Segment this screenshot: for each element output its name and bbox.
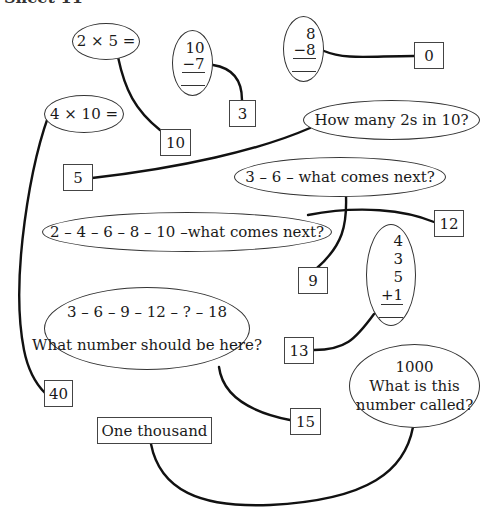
connector-q2-a3 [213,65,242,100]
subtrahend: −8 [293,42,315,59]
question-text: 4 × 10 = [50,106,118,123]
answer-text: One thousand [102,422,208,440]
minuend: 10 [185,40,204,56]
answer-box-12: 12 [434,210,464,237]
question-text: What number should be here? [32,337,262,354]
addend: +1 [381,286,403,305]
question-1000-name: 1000 What is this number called? [349,344,480,428]
question-text: 3 – 6 – what comes next? [245,169,434,186]
question-missing-number: 3 – 6 – 9 – 12 – ? – 18 What number shou… [44,287,250,370]
question-add-4-3-5-1: 4 3 5 +1 [366,224,416,326]
answer-text: 15 [296,413,315,431]
answer-box-9: 9 [298,267,328,294]
answer-text: 13 [289,342,308,360]
question-how-many-2s: How many 2s in 10? [303,100,480,140]
question-2x5: 2 × 5 = [72,23,140,60]
subtraction-stack: 8 −8 [292,26,316,72]
addend: 4 [393,232,403,250]
answer-box-3: 3 [229,100,256,127]
connector-q3-a0 [324,51,414,57]
connector-q7-a12 [308,210,434,222]
answer-box-5: 5 [63,164,93,191]
question-8-minus-8: 8 −8 [283,16,324,82]
answer-text: 12 [439,215,458,233]
connector-q9-a15 [219,367,290,420]
question-text: What is this [369,377,459,396]
question-3-6-next: 3 – 6 – what comes next? [234,157,446,197]
connector-q8-a13 [314,314,374,350]
answer-box-10: 10 [160,129,191,156]
question-10-minus-7: 10 −7 [172,30,213,96]
sequence-text: 3 – 6 – 9 – 12 – ? – 18 [67,304,227,321]
answer-text: 0 [424,47,434,65]
question-text: number called? [356,396,473,415]
addend: 3 [393,250,403,268]
answer-box-40: 40 [44,380,73,407]
question-text: 2 – 4 – 6 – 8 – 10 –what comes next? [50,224,324,241]
answer-text: 9 [308,272,318,290]
answer-text: 3 [238,105,248,123]
connector-lines [0,0,495,515]
question-2-4-6-8-10-next: 2 – 4 – 6 – 8 – 10 –what comes next? [42,212,332,252]
answer-box-one-thousand: One thousand [97,417,212,444]
answer-blank [379,305,403,318]
question-text: 2 × 5 = [77,33,136,50]
addition-stack: 4 3 5 +1 [379,232,403,318]
question-4x10: 4 × 10 = [44,95,124,133]
answer-blank [292,59,316,72]
answer-text: 40 [49,385,68,403]
answer-box-15: 15 [290,408,321,435]
answer-box-13: 13 [284,337,314,364]
answer-text: 5 [73,169,83,187]
minuend: 8 [306,26,316,42]
number-text: 1000 [395,358,433,377]
connector-q1-a10 [118,57,160,130]
question-text: How many 2s in 10? [314,112,468,129]
answer-text: 10 [166,134,185,152]
answer-blank [181,73,205,86]
subtrahend: −7 [182,56,204,73]
addend: 5 [393,268,403,286]
subtraction-stack: 10 −7 [181,40,205,86]
answer-box-0: 0 [414,42,444,69]
